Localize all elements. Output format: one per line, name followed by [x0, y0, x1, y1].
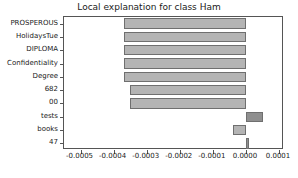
y-tick-label-books: books [37, 125, 58, 133]
y-tick-label-degree: Degree [33, 72, 58, 80]
bar-prosperous [124, 18, 246, 28]
y-tick-label-holidaystue: HolidaysTue [16, 32, 58, 40]
bar-tests [246, 112, 263, 122]
y-tick-label-47: 47 [49, 138, 58, 146]
chart-title: Local explanation for class Ham [0, 2, 298, 12]
bar-holidaystue [124, 32, 246, 42]
y-axis-labels: PROSPEROUSHolidaysTueDIPLOMAConfidential… [0, 16, 60, 149]
bar-books [233, 125, 246, 135]
y-tick-mark [60, 77, 64, 78]
plot-area [63, 16, 283, 149]
bar-682 [130, 85, 246, 95]
x-tick-label: -0.0003 [132, 152, 159, 160]
x-tick-label: -0.0001 [198, 152, 225, 160]
y-tick-mark [60, 130, 64, 131]
y-tick-label-diploma: DIPLOMA [26, 45, 58, 53]
bar-47 [246, 138, 249, 148]
y-tick-label-confidentiality: Confidentiality [7, 59, 58, 67]
x-tick-label: 0.0000 [233, 152, 258, 160]
x-tick-label: 0.0001 [266, 152, 291, 160]
bar-diploma [124, 45, 246, 55]
y-tick-label-00: 00 [49, 98, 58, 106]
chart-root: Local explanation for class Ham PROSPERO… [0, 0, 298, 178]
bar-00 [130, 98, 246, 108]
y-tick-mark [60, 103, 64, 104]
x-axis-labels: -0.0005-0.0004-0.0003-0.0002-0.00010.000… [63, 152, 283, 166]
x-tick-label: -0.0004 [99, 152, 126, 160]
y-tick-mark [60, 24, 64, 25]
x-tick-label: -0.0002 [165, 152, 192, 160]
y-tick-label-tests: tests [41, 112, 58, 120]
bars-layer [64, 17, 282, 148]
y-tick-mark [60, 90, 64, 91]
bar-degree [124, 72, 246, 82]
y-tick-mark [60, 64, 64, 65]
y-tick-label-682: 682 [45, 85, 58, 93]
y-tick-mark [60, 37, 64, 38]
bar-confidentiality [124, 58, 246, 68]
y-tick-mark [60, 143, 64, 144]
x-tick-label: -0.0005 [66, 152, 93, 160]
y-tick-mark [60, 50, 64, 51]
y-tick-label-prosperous: PROSPEROUS [10, 19, 58, 27]
y-tick-mark [60, 117, 64, 118]
